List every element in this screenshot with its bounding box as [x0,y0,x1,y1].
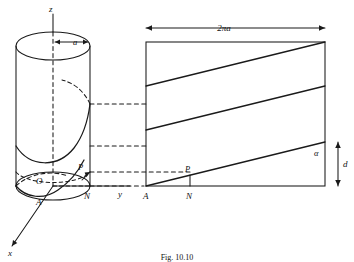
width-arrow-left [146,25,152,31]
width-label: 2πa [217,23,231,33]
development-line-2 [146,86,325,130]
cylinder-point-n-label: N [83,191,91,201]
pitch-label: d [343,159,348,169]
figure-caption: Fig. 10.10 [161,253,194,262]
radius-label: a [73,37,77,47]
pitch-arrow-bottom [335,180,341,186]
angle-alpha-label: α [314,148,319,158]
figure-canvas: z a O A N P y x 2πa A N P α d Fig. 10.10 [0,0,354,262]
y-axis-label: y [117,189,122,199]
helix-development-figure: z a O A N P y x 2πa A N P α d Fig. 10.10 [0,0,354,262]
width-arrow-right [319,25,325,31]
helix-back-upper [62,80,90,104]
development-point-p-label: P [184,164,190,174]
development-point-n-label: N [185,191,193,201]
development-line-1 [146,42,325,86]
x-axis-arrowhead [12,240,17,246]
development-point-a-label: A [142,191,149,201]
x-axis-line [12,186,53,246]
development-line-3 [146,142,325,186]
pitch-arrow-top [335,142,341,148]
z-axis-label: z [48,4,53,14]
cylinder-point-p-label: P [77,162,83,172]
x-axis-label: x [7,248,12,258]
origin-label: O [36,176,43,186]
radius-arrow-left [55,39,60,44]
cylinder-point-a-label: A [35,197,42,207]
